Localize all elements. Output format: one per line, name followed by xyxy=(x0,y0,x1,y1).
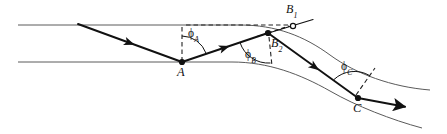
label-point-b1: B1 xyxy=(286,3,297,18)
ray-paths xyxy=(78,20,405,107)
label-point-c: C xyxy=(353,102,361,115)
label-point-b1-subscript: 1 xyxy=(294,11,298,20)
exit-ray xyxy=(358,98,405,107)
label-point-b2-letter: B xyxy=(271,36,278,50)
phi-b-subscript: B xyxy=(251,56,256,65)
layer-boundaries xyxy=(18,25,430,128)
label-angle-phi-a: ϕA xyxy=(188,28,199,42)
point-marker-b1 xyxy=(290,23,295,28)
arrowhead-a-to-b2 xyxy=(218,42,231,53)
label-angle-phi-b: ϕB xyxy=(245,49,256,63)
label-point-b2-subscript: 2 xyxy=(279,45,283,54)
label-angle-phi-c: ϕC xyxy=(341,61,352,75)
upper-boundary xyxy=(18,25,430,90)
direction-arrowheads xyxy=(123,37,322,74)
label-point-a: A xyxy=(177,66,185,79)
label-point-b1-letter: B xyxy=(286,2,293,16)
label-point-b2: B2 xyxy=(271,37,282,52)
ray-diagram-canvas xyxy=(0,0,447,134)
phi-c-subscript: C xyxy=(347,68,352,77)
arrowhead-incident xyxy=(123,37,136,49)
phi-a-subscript: A xyxy=(194,35,199,44)
ray-path-figure: A B1 B2 C ϕA ϕB ϕC xyxy=(0,0,447,134)
